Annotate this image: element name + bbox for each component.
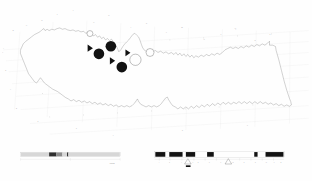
scan-noise xyxy=(0,0,312,181)
survey-map-figure: A B C D E F G H J K L M N P Q R S 1 2 3 … xyxy=(0,0,312,181)
map-canvas: A B C D E F G H J K L M N P Q R S 1 2 3 … xyxy=(0,0,312,181)
